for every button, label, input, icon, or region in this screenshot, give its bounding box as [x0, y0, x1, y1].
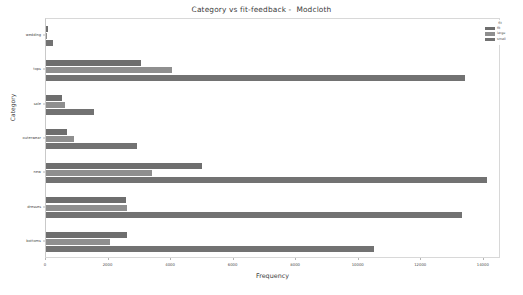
bar-tops-large	[46, 67, 172, 73]
x-tick-mark	[108, 258, 109, 260]
x-tick-label-6000: 6000	[228, 262, 238, 267]
legend-swatch-large	[485, 32, 495, 35]
bar-group	[46, 163, 499, 183]
x-tick-label-12000: 12000	[414, 262, 426, 267]
bar-bottoms-large	[46, 239, 110, 245]
y-tick-label-bottoms: bottoms	[26, 239, 41, 243]
y-tick-label-tops: tops	[33, 67, 41, 71]
bar-new-fit	[46, 163, 202, 169]
bar-group	[46, 95, 499, 115]
y-tick-label-dresses: dresses	[27, 205, 41, 209]
x-tick-mark	[233, 258, 234, 260]
bar-sale-small	[46, 109, 94, 115]
y-tick-label-outerwear: outerwear	[23, 136, 41, 140]
bar-wedding-small	[46, 40, 53, 46]
bar-bottoms-small	[46, 246, 374, 252]
bar-group	[46, 129, 499, 149]
bar-new-small	[46, 177, 487, 183]
legend: fit fitlargesmall	[483, 20, 517, 45]
x-tick-label-8000: 8000	[290, 262, 300, 267]
x-tick-label-2000: 2000	[103, 262, 113, 267]
bar-group	[46, 60, 499, 80]
legend-label-large: large	[497, 32, 505, 35]
bar-tops-fit	[46, 60, 141, 66]
bar-group	[46, 232, 499, 252]
plot-axes	[45, 18, 500, 258]
legend-label-fit: fit	[497, 27, 500, 30]
x-axis-label: Frequency	[45, 272, 500, 280]
x-tick-mark	[295, 258, 296, 260]
bar-sale-large	[46, 102, 65, 108]
x-tick-label-14000: 14000	[477, 262, 489, 267]
bar-dresses-fit	[46, 197, 126, 203]
x-tick-label-4000: 4000	[165, 262, 175, 267]
y-tick-label-wedding: wedding	[26, 33, 41, 37]
bar-outerwear-large	[46, 136, 74, 142]
x-tick-mark	[45, 258, 46, 260]
legend-swatch-fit	[485, 27, 495, 30]
legend-entry-large[interactable]: large	[485, 32, 515, 37]
y-axis-tick-labels: weddingtopssaleouterwearnewdressesbottom…	[0, 18, 45, 258]
legend-label-small: small	[497, 38, 506, 41]
legend-title: fit	[485, 21, 515, 25]
bar-group	[46, 197, 499, 217]
x-tick-mark	[420, 258, 421, 260]
x-tick-mark	[170, 258, 171, 260]
y-tick-label-sale: sale	[34, 102, 41, 106]
bar-tops-small	[46, 75, 465, 81]
x-tick-mark	[483, 258, 484, 260]
x-tick-label-10000: 10000	[352, 262, 364, 267]
plot-area	[46, 19, 499, 257]
y-tick-label-new: new	[34, 170, 41, 174]
bar-outerwear-fit	[46, 129, 67, 135]
bar-wedding-fit	[46, 26, 48, 32]
bar-group	[46, 26, 499, 46]
bar-dresses-small	[46, 212, 462, 218]
x-tick-label-0: 0	[44, 262, 46, 267]
bar-new-large	[46, 170, 152, 176]
bar-dresses-large	[46, 205, 127, 211]
x-tick-mark	[358, 258, 359, 260]
legend-entry-fit[interactable]: fit	[485, 26, 515, 31]
bar-outerwear-small	[46, 143, 137, 149]
bar-wedding-large	[46, 33, 47, 39]
legend-entries: fitlargesmall	[485, 26, 515, 42]
chart-figure: Category vs fit-feedback - Modcloth Cate…	[0, 0, 523, 295]
bar-sale-fit	[46, 95, 62, 101]
legend-entry-small[interactable]: small	[485, 37, 515, 42]
x-axis-tick-labels: 02000400060008000100001200014000	[45, 258, 500, 272]
bar-bottoms-fit	[46, 232, 127, 238]
chart-title: Category vs fit-feedback - Modcloth	[0, 5, 523, 14]
legend-swatch-small	[485, 38, 495, 41]
